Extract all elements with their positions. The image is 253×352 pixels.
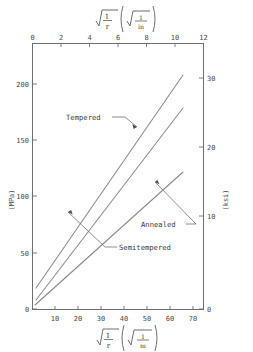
bottom-tick-20: 20 bbox=[74, 315, 82, 323]
top-tick-4: 4 bbox=[87, 34, 91, 42]
left-tick-100: 100 bbox=[16, 193, 29, 201]
bottom-tick-60: 60 bbox=[166, 315, 174, 323]
bottom-tick-40: 40 bbox=[120, 315, 128, 323]
annotation-tempered: Tempered bbox=[66, 113, 101, 122]
leader-annealed bbox=[155, 182, 196, 224]
top-tick-10: 10 bbox=[171, 34, 179, 42]
top-axis-label: 1 r 1 in bbox=[96, 6, 155, 32]
right-tick-0: 0 bbox=[207, 306, 211, 314]
right-tick-10: 10 bbox=[207, 213, 215, 221]
right-tick-30: 30 bbox=[207, 75, 215, 83]
bottom-label-numerator: 1 bbox=[106, 332, 110, 340]
series-line-tempered bbox=[36, 75, 183, 288]
annotation-semitempered: Semitempered bbox=[119, 243, 171, 252]
annotation-annealed: Annealed bbox=[141, 220, 176, 229]
chart-canvas: 0 2 4 6 8 10 12 0 10 20 30 40 50 60 70 bbox=[0, 0, 253, 352]
bottom-tick-30: 30 bbox=[97, 315, 105, 323]
left-tick-50: 50 bbox=[21, 250, 29, 258]
left-tick-150: 150 bbox=[16, 137, 29, 145]
top-tick-6: 6 bbox=[116, 34, 120, 42]
bottom-axis-label: 1 r 1 m bbox=[97, 325, 157, 351]
bottom-label-unit-numerator: 1 bbox=[141, 333, 145, 340]
right-tick-20: 20 bbox=[207, 144, 215, 152]
bottom-origin-label: 0 bbox=[25, 306, 29, 314]
bottom-tick-70: 70 bbox=[189, 315, 197, 323]
hall-petch-plot: 0 2 4 6 8 10 12 0 10 20 30 40 50 60 70 bbox=[0, 0, 253, 352]
top-tick-2: 2 bbox=[59, 34, 63, 42]
top-axis-ticks bbox=[33, 44, 204, 49]
right-axis-unit: (ksi) bbox=[222, 189, 230, 210]
bottom-tick-50: 50 bbox=[143, 315, 151, 323]
left-axis-ticks bbox=[33, 84, 38, 309]
bottom-tick-10: 10 bbox=[51, 315, 59, 323]
top-tick-8: 8 bbox=[144, 34, 148, 42]
bottom-label-unit-denominator: m bbox=[140, 342, 146, 349]
leader-semitempered bbox=[68, 212, 117, 247]
top-label-denominator: r bbox=[106, 23, 110, 31]
top-label-unit-numerator: 1 bbox=[139, 14, 143, 21]
bottom-axis-ticks bbox=[33, 305, 194, 310]
right-axis-ticks bbox=[199, 78, 204, 309]
series-line-semitempered bbox=[36, 108, 183, 300]
left-tick-200: 200 bbox=[16, 81, 29, 89]
top-tick-0: 0 bbox=[30, 34, 34, 42]
left-axis-unit: (MPa) bbox=[8, 189, 16, 210]
top-tick-12: 12 bbox=[199, 34, 207, 42]
top-label-numerator: 1 bbox=[105, 13, 109, 21]
top-label-unit-denominator: in bbox=[138, 23, 144, 30]
series-line-annealed bbox=[35, 172, 183, 305]
bottom-label-denominator: r bbox=[107, 342, 111, 350]
